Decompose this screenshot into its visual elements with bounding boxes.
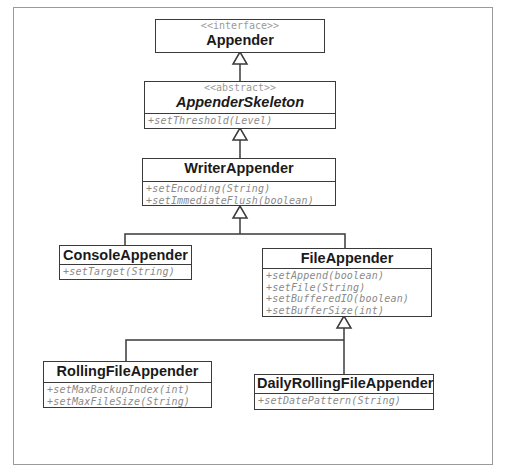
operation: +setBufferedIO(boolean) — [266, 293, 428, 305]
operations-compartment: +setAppend(boolean) +setFile(String) +se… — [263, 268, 431, 317]
operation: +setMaxBackupIndex(int) — [47, 384, 208, 396]
operation: +setDatePattern(String) — [258, 395, 430, 407]
operations-compartment: +setDatePattern(String) — [255, 393, 433, 408]
class-name: WriterAppender — [145, 160, 333, 177]
class-writer-appender: WriterAppender +setEncoding(String) +set… — [142, 158, 336, 206]
class-header: ConsoleAppender — [60, 246, 191, 264]
operation: +setMaxFileSize(String) — [47, 396, 208, 408]
class-header: FileAppender — [263, 249, 431, 268]
operation: +setEncoding(String) — [146, 183, 332, 195]
generalization-arrow-icon — [233, 52, 247, 64]
operation: +setBufferSize(int) — [266, 305, 428, 317]
operations-compartment: +setEncoding(String) +setImmediateFlush(… — [143, 181, 335, 207]
class-daily-rolling-file-appender: DailyRollingFileAppender +setDatePattern… — [254, 374, 434, 410]
class-file-appender: FileAppender +setAppend(boolean) +setFil… — [262, 248, 432, 317]
operation: +setTarget(String) — [63, 266, 188, 278]
class-console-appender: ConsoleAppender +setTarget(String) — [59, 245, 192, 280]
generalization-arrow-icon — [337, 316, 351, 328]
class-appender-skeleton: <<abstract>> AppenderSkeleton +setThresh… — [144, 81, 336, 129]
stereotype-label: <<abstract>> — [147, 82, 333, 94]
operations-compartment: +setThreshold(Level) — [145, 113, 335, 128]
operation: +setThreshold(Level) — [148, 115, 332, 127]
operation: +setAppend(boolean) — [266, 270, 428, 282]
class-header: DailyRollingFileAppender — [255, 375, 433, 393]
class-header: RollingFileAppender — [44, 362, 211, 382]
generalization-arrow-icon — [233, 206, 247, 218]
class-name: FileAppender — [265, 250, 429, 267]
operation: +setImmediateFlush(boolean) — [146, 195, 332, 207]
stereotype-label: <<interface>> — [158, 20, 322, 32]
class-name: ConsoleAppender — [62, 247, 189, 264]
class-rolling-file-appender: RollingFileAppender +setMaxBackupIndex(i… — [43, 361, 212, 408]
generalization-arrow-icon — [233, 128, 247, 140]
class-appender: <<interface>> Appender — [155, 19, 325, 53]
class-name: DailyRollingFileAppender — [257, 375, 431, 392]
class-name: RollingFileAppender — [46, 363, 209, 380]
class-name: AppenderSkeleton — [147, 94, 333, 111]
class-header: <<interface>> Appender — [156, 20, 324, 49]
operations-compartment: +setTarget(String) — [60, 264, 191, 279]
class-header: WriterAppender — [143, 159, 335, 181]
operations-compartment: +setMaxBackupIndex(int) +setMaxFileSize(… — [44, 382, 211, 408]
class-header: <<abstract>> AppenderSkeleton — [145, 82, 335, 113]
class-name: Appender — [158, 32, 322, 49]
operation: +setFile(String) — [266, 282, 428, 294]
